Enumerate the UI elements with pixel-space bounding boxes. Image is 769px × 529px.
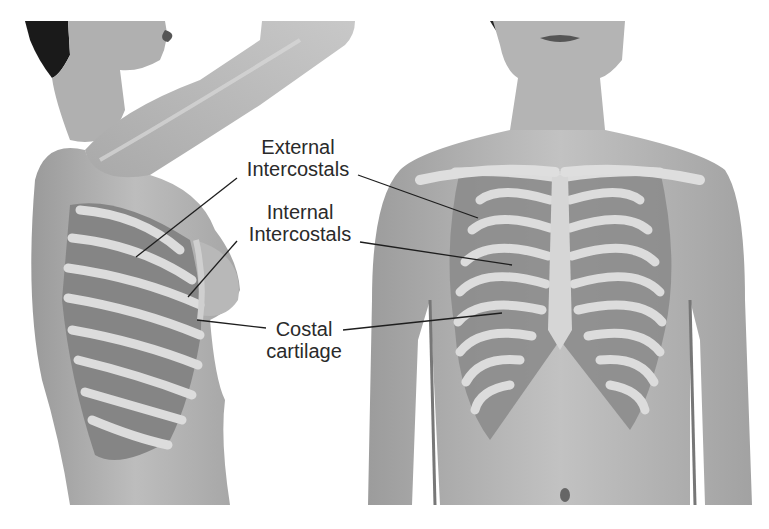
leader-internal-lateral — [188, 241, 237, 297]
label-line: Costal — [262, 318, 346, 340]
leader-external-lateral — [136, 178, 237, 257]
label-external-intercostals: External Intercostals — [238, 136, 358, 180]
label-line: External — [238, 136, 358, 158]
leader-internal-anterior — [360, 242, 512, 265]
label-line: cartilage — [262, 340, 346, 362]
leader-costal-anterior — [343, 313, 502, 330]
label-costal-cartilage: Costal cartilage — [262, 318, 346, 362]
leader-costal-lateral — [197, 320, 266, 328]
leader-external-anterior — [358, 175, 478, 218]
leader-lines — [0, 0, 769, 529]
label-internal-intercostals: Internal Intercostals — [240, 201, 360, 245]
label-line: Intercostals — [238, 158, 358, 180]
label-line: Intercostals — [240, 223, 360, 245]
label-line: Internal — [240, 201, 360, 223]
